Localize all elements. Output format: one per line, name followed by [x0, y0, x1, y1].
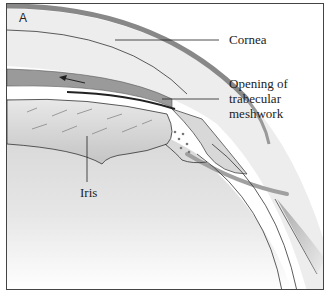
- panel-letter: A: [19, 11, 27, 25]
- eye-anatomy-illustration: [7, 4, 324, 290]
- label-line-1: Opening of: [229, 76, 288, 91]
- label-line-2: trabecular: [229, 91, 288, 106]
- label-trabecular-opening: Opening of trabecular meshwork: [229, 76, 288, 121]
- label-iris: Iris: [80, 185, 97, 200]
- figure-frame: A Cornea Opening of trabecular meshwork …: [6, 3, 324, 290]
- label-cornea: Cornea: [229, 32, 267, 47]
- label-line-3: meshwork: [229, 106, 288, 121]
